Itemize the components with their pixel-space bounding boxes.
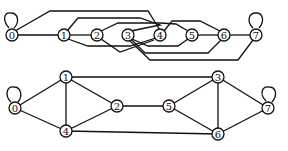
node-0: 0 xyxy=(6,29,18,41)
node-label: 6 xyxy=(215,129,221,140)
node-7: 7 xyxy=(262,102,274,114)
node-label: 1 xyxy=(63,72,69,83)
node-label: 7 xyxy=(253,30,259,41)
node-label: 2 xyxy=(94,30,100,41)
node-5: 5 xyxy=(186,29,198,41)
node-label: 0 xyxy=(12,103,18,114)
linear-layout-graph: 01234567 xyxy=(5,11,263,60)
self-loop-edge xyxy=(249,13,263,28)
edge-6-7 xyxy=(218,108,268,134)
node-1: 1 xyxy=(60,71,72,83)
edge-3-7 xyxy=(218,77,268,108)
edge-5-6 xyxy=(169,106,218,134)
node-label: 2 xyxy=(114,101,120,112)
node-label: 1 xyxy=(61,30,67,41)
node-4: 4 xyxy=(60,125,72,137)
node-6: 6 xyxy=(218,29,230,41)
edge-0-4 xyxy=(15,11,160,31)
node-label: 5 xyxy=(166,101,172,112)
node-1: 1 xyxy=(58,29,70,41)
graph-diagram-canvas: 0123456701234567 xyxy=(0,0,288,151)
node-label: 3 xyxy=(125,30,131,41)
node-label: 4 xyxy=(63,126,69,137)
node-label: 3 xyxy=(215,72,221,83)
node-7: 7 xyxy=(250,29,262,41)
edge-1-4 xyxy=(68,38,156,46)
node-0: 0 xyxy=(9,102,21,114)
self-loop-edge xyxy=(262,87,276,102)
planar-layout-graph: 01234567 xyxy=(7,71,276,140)
node-label: 4 xyxy=(157,30,163,41)
edge-4-6 xyxy=(66,131,218,134)
node-label: 0 xyxy=(9,30,15,41)
edge-2-4 xyxy=(66,106,117,131)
edge-2-5 xyxy=(101,23,188,31)
node-label: 6 xyxy=(221,30,227,41)
node-5: 5 xyxy=(163,100,175,112)
node-2: 2 xyxy=(91,29,103,41)
node-6: 6 xyxy=(212,128,224,140)
node-label: 5 xyxy=(189,30,195,41)
self-loop-edge xyxy=(7,87,21,102)
node-2: 2 xyxy=(111,100,123,112)
node-4: 4 xyxy=(154,29,166,41)
edge-0-4 xyxy=(15,108,66,131)
node-label: 7 xyxy=(265,103,271,114)
edge-0-1 xyxy=(15,77,66,108)
node-3: 3 xyxy=(212,71,224,83)
node-3: 3 xyxy=(122,29,134,41)
edge-3-5 xyxy=(169,77,218,106)
self-loop-edge xyxy=(5,13,18,28)
edge-3-7 xyxy=(129,40,253,60)
edge-1-2 xyxy=(66,77,117,106)
